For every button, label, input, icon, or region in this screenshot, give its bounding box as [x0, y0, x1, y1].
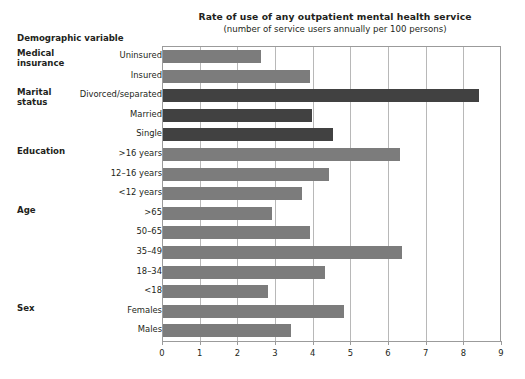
x-tick-label: 9 [491, 348, 511, 358]
bar [163, 70, 310, 83]
plot-area [162, 46, 501, 341]
x-tick-label: 6 [378, 348, 398, 358]
category-label: <12 years [12, 187, 162, 197]
bar [163, 266, 325, 279]
bar [163, 148, 400, 161]
bar [163, 305, 344, 318]
x-tick-3 [275, 341, 276, 345]
bar [163, 246, 402, 259]
bar [163, 324, 291, 337]
chart-title-block: Rate of use of any outpatient mental hea… [165, 11, 505, 34]
bar [163, 226, 310, 239]
category-label: Married [12, 109, 162, 119]
category-label: Males [12, 324, 162, 334]
bar [163, 187, 302, 200]
x-tick-9 [501, 341, 502, 345]
bar [163, 109, 312, 122]
x-tick-8 [463, 341, 464, 345]
x-tick-label: 5 [340, 348, 360, 358]
demographic-variable-header: Demographic variable [17, 33, 124, 43]
bar [163, 168, 329, 181]
x-tick-4 [313, 341, 314, 345]
bar [163, 50, 261, 63]
x-tick-label: 1 [190, 348, 210, 358]
x-tick-7 [426, 341, 427, 345]
chart-subtitle: (number of service users annually per 10… [165, 24, 505, 35]
x-tick-label: 3 [265, 348, 285, 358]
x-tick-label: 7 [416, 348, 436, 358]
category-label: >65 [12, 207, 162, 217]
x-tick-label: 8 [453, 348, 473, 358]
x-tick-label: 4 [303, 348, 323, 358]
x-tick-1 [200, 341, 201, 345]
x-tick-0 [162, 341, 163, 345]
x-tick-2 [237, 341, 238, 345]
category-label: >16 years [12, 148, 162, 158]
category-label: 18–34 [12, 266, 162, 276]
bar [163, 207, 272, 220]
bar [163, 128, 333, 141]
x-axis-line [162, 341, 501, 342]
category-label: Divorced/separated [12, 89, 162, 99]
page-title: Rate of use of any outpatient mental hea… [165, 11, 505, 23]
x-tick-5 [350, 341, 351, 345]
category-label: <18 [12, 285, 162, 295]
category-label: Uninsured [12, 50, 162, 60]
x-tick-6 [388, 341, 389, 345]
x-tick-label: 2 [227, 348, 247, 358]
category-label: Single [12, 128, 162, 138]
category-label: 12–16 years [12, 168, 162, 178]
category-label: 35–49 [12, 246, 162, 256]
category-label: Females [12, 305, 162, 315]
bar [163, 285, 268, 298]
category-label: 50–65 [12, 226, 162, 236]
x-tick-label: 0 [152, 348, 172, 358]
bar [163, 89, 479, 102]
category-label: Insured [12, 70, 162, 80]
